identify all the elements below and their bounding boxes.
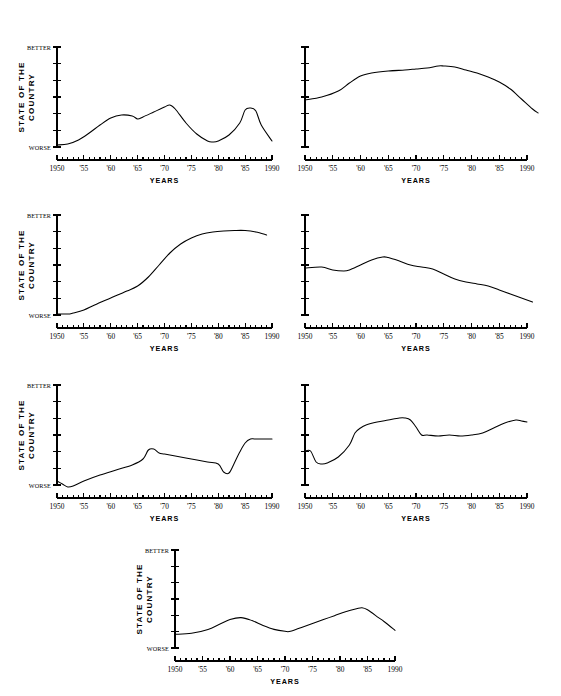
data-curve xyxy=(305,418,527,464)
x-tick-label: 1950 xyxy=(50,164,65,173)
x-tick-label: '60 xyxy=(356,332,365,341)
x-tick-label: '85 xyxy=(241,502,250,511)
x-tick-label: '60 xyxy=(106,332,115,341)
x-tick-label: '70 xyxy=(412,332,421,341)
y-axis-bottom-label: WORSE xyxy=(29,144,51,151)
x-tick-label: '80 xyxy=(336,665,345,674)
x-tick-label: '80 xyxy=(467,164,476,173)
x-tick-label: '55 xyxy=(328,502,337,511)
y-axis-title-line2: COUNTRY xyxy=(27,73,36,121)
data-curve xyxy=(305,66,538,113)
x-axis-title: YEARS xyxy=(150,514,179,523)
x-tick-label: '65 xyxy=(133,164,142,173)
x-tick-label: '60 xyxy=(226,665,235,674)
data-curve xyxy=(57,105,272,145)
y-axis-bottom-label: WORSE xyxy=(147,645,169,652)
x-tick-label: '55 xyxy=(80,502,89,511)
x-tick-label: '80 xyxy=(214,332,223,341)
y-axis-bottom-label: WORSE xyxy=(29,482,51,489)
x-tick-label: '75 xyxy=(439,164,448,173)
y-axis-title-line2: COUNTRY xyxy=(27,241,36,289)
x-tick-label: '65 xyxy=(384,332,393,341)
x-tick-label: 1990 xyxy=(520,164,535,173)
x-tick-label: '75 xyxy=(187,502,196,511)
x-tick-label: '80 xyxy=(467,502,476,511)
x-tick-label: '70 xyxy=(412,502,421,511)
y-axis-title-line1: STATE OF THE xyxy=(17,229,26,300)
x-tick-label: '85 xyxy=(363,665,372,674)
x-tick-label: '70 xyxy=(160,332,169,341)
x-tick-label: 1990 xyxy=(520,332,535,341)
x-tick-label: '55 xyxy=(80,164,89,173)
x-axis-title: YEARS xyxy=(401,176,430,185)
x-tick-label: '55 xyxy=(198,665,207,674)
x-tick-label: '80 xyxy=(214,164,223,173)
x-tick-label: 1990 xyxy=(265,332,280,341)
x-axis-title: YEARS xyxy=(401,514,430,523)
x-tick-label: '60 xyxy=(356,502,365,511)
x-tick-label: 1990 xyxy=(388,665,403,674)
x-tick-label: '85 xyxy=(241,332,250,341)
x-tick-label: '65 xyxy=(253,665,262,674)
x-axis-title: YEARS xyxy=(150,176,179,185)
x-tick-label: '85 xyxy=(495,164,504,173)
x-tick-label: 1990 xyxy=(265,164,280,173)
x-tick-label: 1950 xyxy=(50,502,65,511)
x-tick-label: '80 xyxy=(467,332,476,341)
data-curve xyxy=(57,439,272,487)
x-tick-label: '55 xyxy=(80,332,89,341)
x-tick-label: '55 xyxy=(328,332,337,341)
x-tick-label: '65 xyxy=(384,502,393,511)
x-tick-label: 1990 xyxy=(520,502,535,511)
x-tick-label: '75 xyxy=(187,332,196,341)
x-tick-label: '65 xyxy=(133,332,142,341)
y-axis-top-label: BETTER xyxy=(145,547,170,554)
x-tick-label: '75 xyxy=(308,665,317,674)
y-axis-title-line2: COUNTRY xyxy=(145,575,154,623)
y-axis-title-line1: STATE OF THE xyxy=(17,61,26,132)
x-tick-label: '70 xyxy=(160,502,169,511)
x-tick-label: '55 xyxy=(328,164,337,173)
x-tick-label: '85 xyxy=(495,332,504,341)
x-tick-label: '85 xyxy=(241,164,250,173)
x-tick-label: '65 xyxy=(384,164,393,173)
y-axis-top-label: BETTER xyxy=(27,382,52,389)
y-axis-title-line2: COUNTRY xyxy=(27,411,36,459)
x-tick-label: '60 xyxy=(356,164,365,173)
x-tick-label: '70 xyxy=(412,164,421,173)
x-tick-label: 1990 xyxy=(265,502,280,511)
x-tick-label: '80 xyxy=(214,502,223,511)
x-tick-label: 1950 xyxy=(50,332,65,341)
data-curve xyxy=(57,230,267,314)
x-axis-title: YEARS xyxy=(270,677,299,686)
data-curve xyxy=(175,608,395,634)
x-tick-label: '85 xyxy=(495,502,504,511)
x-axis-title: YEARS xyxy=(150,344,179,353)
x-tick-label: '75 xyxy=(187,164,196,173)
data-curve xyxy=(305,257,533,302)
x-tick-label: '65 xyxy=(133,502,142,511)
x-tick-label: '75 xyxy=(439,502,448,511)
x-tick-label: '70 xyxy=(160,164,169,173)
x-tick-label: 1950 xyxy=(298,332,313,341)
y-axis-bottom-label: WORSE xyxy=(29,312,51,319)
y-axis-title-line1: STATE OF THE xyxy=(135,563,144,634)
x-tick-label: 1950 xyxy=(168,665,183,674)
y-axis-top-label: BETTER xyxy=(27,212,52,219)
y-axis-title-line1: STATE OF THE xyxy=(17,399,26,470)
x-tick-label: '60 xyxy=(106,502,115,511)
x-axis-title: YEARS xyxy=(401,344,430,353)
y-axis-top-label: BETTER xyxy=(27,44,52,51)
x-tick-label: 1950 xyxy=(298,164,313,173)
x-tick-label: 1950 xyxy=(298,502,313,511)
x-tick-label: '75 xyxy=(439,332,448,341)
x-tick-label: '70 xyxy=(281,665,290,674)
x-tick-label: '60 xyxy=(106,164,115,173)
